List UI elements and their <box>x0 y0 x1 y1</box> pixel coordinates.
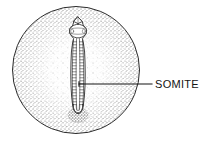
optic-vesicle-left <box>71 29 74 33</box>
embryo-somite-figure: SOMITE <box>0 0 212 143</box>
figure-canvas: SOMITE <box>0 0 212 143</box>
somite-label-text: SOMITE <box>155 78 199 90</box>
optic-vesicle-right <box>82 29 85 33</box>
